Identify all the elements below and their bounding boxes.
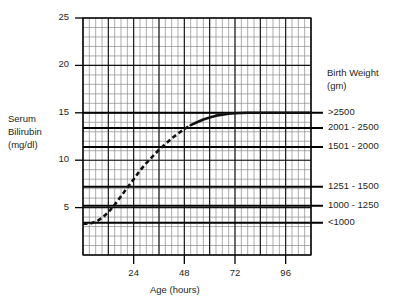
chart-figure: Serum Bilirubin (mg/dl) Age (hours) Birt… — [0, 0, 399, 308]
legend-item-label: 1000 - 1250 — [328, 199, 379, 210]
y-tick-label: 15 — [45, 106, 69, 117]
y-tick-label: 5 — [45, 201, 69, 212]
legend-item-label: 1251 - 1500 — [328, 180, 379, 191]
x-tick-label: 24 — [122, 267, 146, 278]
x-tick-label: 72 — [223, 267, 247, 278]
y-tick-label: 10 — [45, 153, 69, 164]
legend-item-label: 2001 - 2500 — [328, 121, 379, 132]
y-tick-label: 20 — [45, 58, 69, 69]
x-tick-label: 96 — [274, 267, 298, 278]
x-tick-label: 48 — [172, 267, 196, 278]
legend-item-label: <1000 — [328, 216, 355, 227]
y-tick-label: 25 — [45, 11, 69, 22]
legend-item-label: 1501 - 2000 — [328, 140, 379, 151]
legend-item-label: >2500 — [328, 106, 355, 117]
